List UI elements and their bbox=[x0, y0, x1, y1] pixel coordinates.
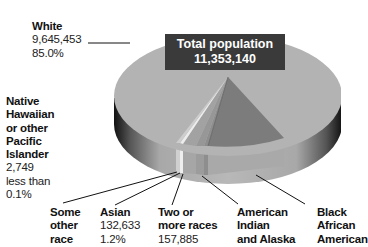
total-title: Total population bbox=[165, 37, 285, 52]
label-two-or-more-races: Two or more races 157,885 bbox=[158, 206, 217, 246]
label-black: Black African American bbox=[317, 206, 368, 246]
total-value: 11,353,140 bbox=[165, 52, 285, 67]
label-some-other-race: Some other race bbox=[50, 206, 81, 246]
label-nhpi: Native Hawaiian or other Pacific Islande… bbox=[6, 95, 54, 201]
label-american-indian: American Indian and Alaska bbox=[237, 206, 295, 246]
label-asian: Asian 132,633 1.2% bbox=[100, 206, 140, 246]
label-white: White 9,645,453 85.0% bbox=[32, 20, 81, 60]
total-population-box: Total population 11,353,140 bbox=[165, 34, 285, 70]
